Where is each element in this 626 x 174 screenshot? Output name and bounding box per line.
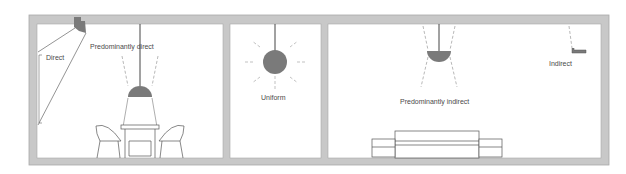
label-indirect: Indirect <box>549 60 572 67</box>
label-predominantly-indirect: Predominantly indirect <box>400 98 469 106</box>
lighting-diagram: Direct Predominantly direct <box>0 0 626 174</box>
nightstand-right <box>479 139 502 157</box>
nightstand-left <box>372 139 395 157</box>
bed <box>395 131 479 158</box>
diagram-canvas: Direct Predominantly direct <box>0 0 626 174</box>
dining-table-top <box>121 125 159 129</box>
label-direct: Direct <box>46 54 64 61</box>
building-section <box>29 15 609 165</box>
label-predominantly-direct: Predominantly direct <box>90 43 154 51</box>
label-uniform: Uniform <box>261 94 286 101</box>
globe-lamp-icon <box>263 50 287 74</box>
